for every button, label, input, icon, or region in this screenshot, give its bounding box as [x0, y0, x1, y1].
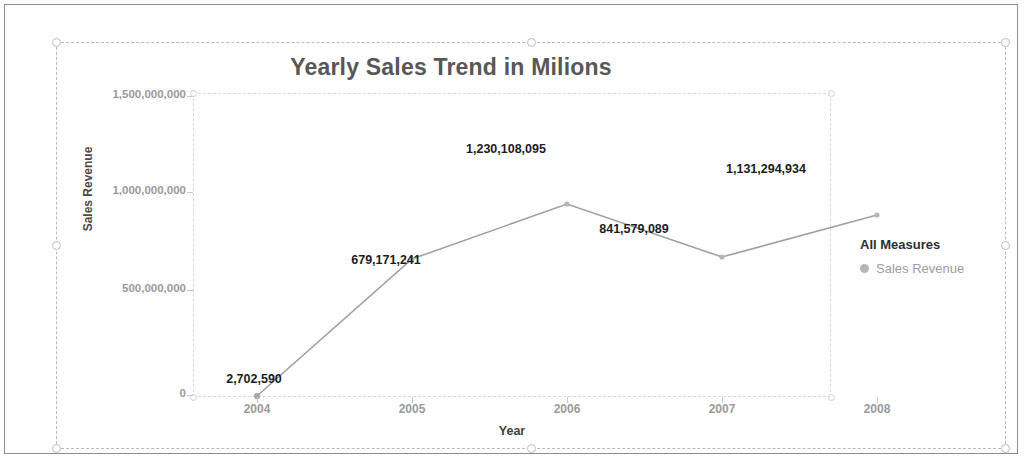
- data-point-marker[interactable]: [719, 254, 724, 259]
- data-point-marker[interactable]: [564, 201, 569, 206]
- x-tick-label-2008: 2008: [837, 402, 917, 416]
- x-tick-label-2005: 2005: [372, 402, 452, 416]
- data-point-label-2006: 1,230,108,095: [416, 142, 596, 156]
- legend-title: All Measures: [860, 237, 1010, 252]
- x-tick-label-2007: 2007: [682, 402, 762, 416]
- x-tick-label-2006: 2006: [527, 402, 607, 416]
- data-point-marker[interactable]: [874, 212, 879, 217]
- data-point-label-2005: 679,171,241: [296, 253, 476, 267]
- legend-item-sales-revenue[interactable]: Sales Revenue: [860, 261, 1010, 276]
- data-point-label-2008: 1,131,294,934: [676, 162, 856, 176]
- chart-legend[interactable]: All Measures Sales Revenue: [860, 237, 1010, 276]
- legend-item-label: Sales Revenue: [876, 261, 964, 276]
- legend-marker-circle-icon: [860, 264, 869, 273]
- data-point-label-2004: 2,702,590: [164, 372, 344, 386]
- chart-canvas[interactable]: Yearly Sales Trend in Milions Sales Reve…: [56, 42, 1006, 449]
- chart-screenshot: Yearly Sales Trend in Milions Sales Reve…: [0, 0, 1025, 468]
- x-axis-title: Year: [193, 424, 831, 438]
- x-tick-label-2004: 2004: [217, 402, 297, 416]
- data-point-label-2007: 841,579,089: [544, 222, 724, 236]
